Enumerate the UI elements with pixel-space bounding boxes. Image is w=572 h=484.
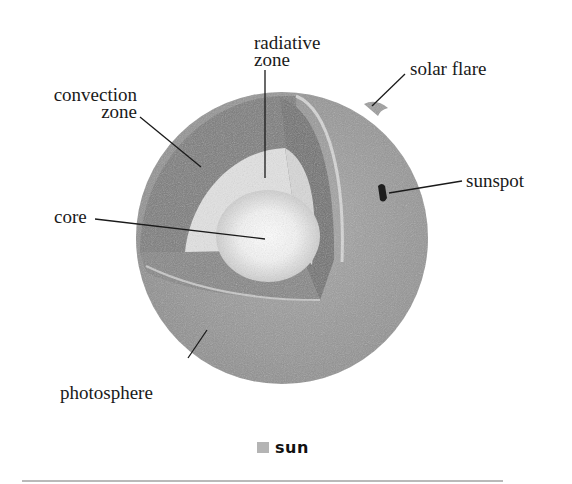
label-photosphere: photosphere — [60, 384, 153, 401]
legend: sun — [257, 438, 309, 457]
label-line: zone — [32, 103, 137, 120]
label-sunspot: sunspot — [466, 172, 524, 189]
label-core: core — [54, 208, 87, 225]
divider — [22, 480, 503, 482]
sun-sphere — [136, 92, 428, 384]
legend-label: sun — [275, 438, 309, 457]
label-radiative-zone: radiative zone — [254, 34, 320, 68]
legend-swatch — [257, 442, 269, 453]
label-line: zone — [254, 51, 320, 68]
label-solar-flare: solar flare — [410, 60, 486, 77]
label-convection-zone: convection zone — [32, 86, 137, 120]
sun-diagram: radiative zone convection zone solar fla… — [0, 0, 572, 484]
